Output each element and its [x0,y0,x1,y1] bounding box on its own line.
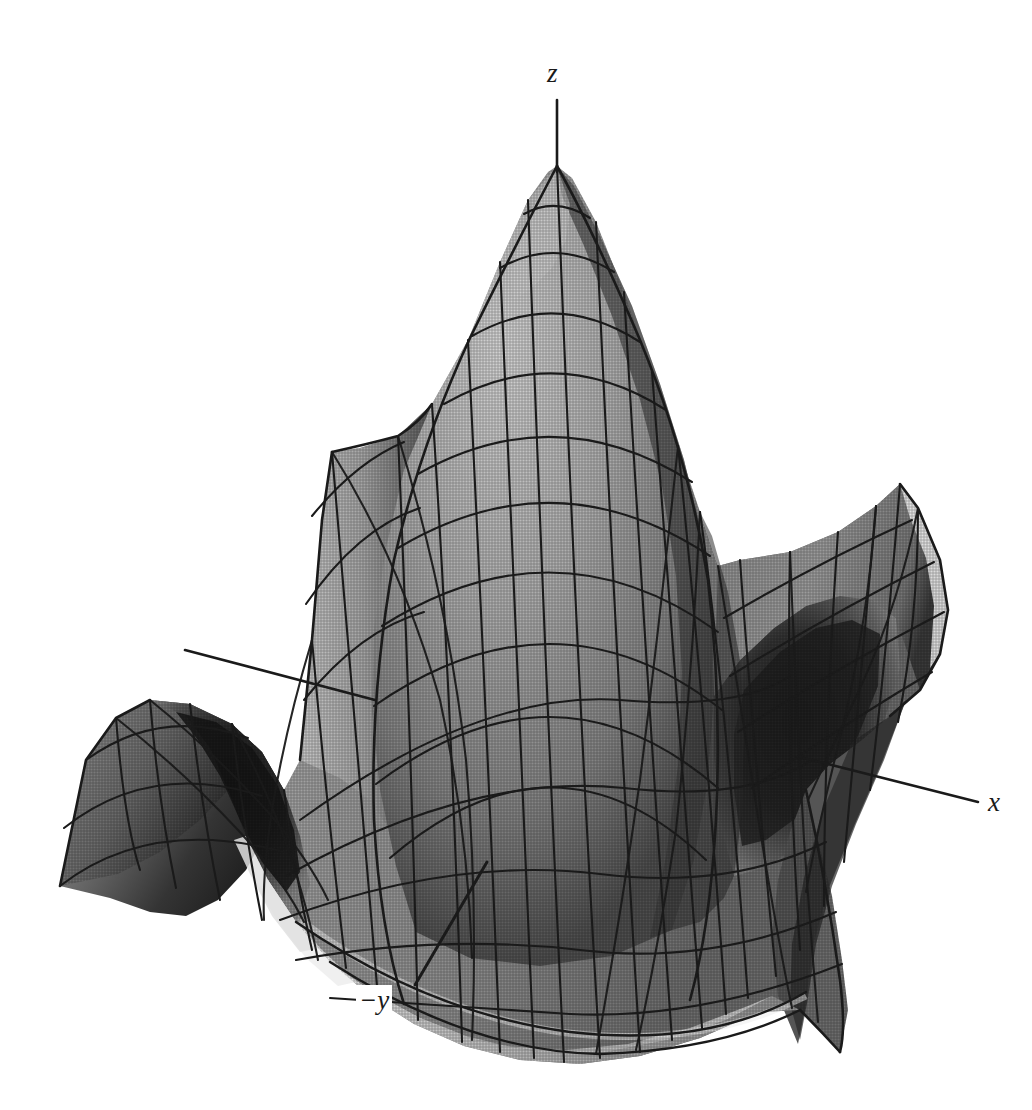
surface-canvas [0,0,1032,1110]
axis-label-z: z [547,60,558,87]
halftone-texture [60,166,948,1064]
axis-label-x: x [988,789,1000,816]
surface-plot-figure: z x −y [0,0,1032,1110]
axis-label-y: −y [356,985,392,1017]
